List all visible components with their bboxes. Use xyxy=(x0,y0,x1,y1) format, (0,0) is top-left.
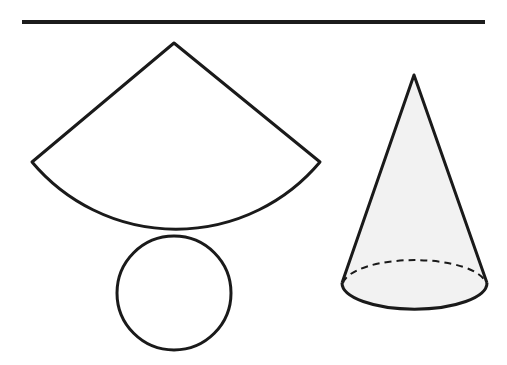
cone-solid xyxy=(342,75,487,309)
net-base-circle xyxy=(117,236,231,350)
net-sector xyxy=(32,43,320,229)
cone-diagram xyxy=(0,0,507,365)
cone-body xyxy=(342,75,487,308)
